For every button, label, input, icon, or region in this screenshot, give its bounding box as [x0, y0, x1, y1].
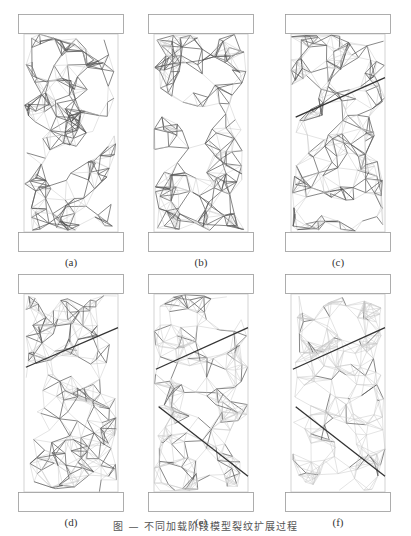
top-platen	[19, 275, 124, 294]
top-platen	[286, 275, 391, 294]
panel-c: (c)	[285, 14, 391, 252]
crack-line	[159, 407, 248, 476]
panel-a: (a)	[18, 14, 124, 252]
top-platen	[149, 275, 254, 294]
specimen-mesh	[148, 274, 254, 512]
panel-label: (a)	[18, 256, 124, 268]
bottom-platen	[286, 233, 391, 252]
panel-d: (d)	[18, 274, 124, 512]
bottom-platen	[286, 493, 391, 512]
specimen-mesh	[148, 14, 254, 252]
crack-line	[296, 78, 385, 118]
panel-label: (b)	[148, 256, 254, 268]
top-platen	[19, 15, 124, 34]
top-platen	[149, 15, 254, 34]
panel-e: (e)	[148, 274, 254, 512]
top-platen	[286, 15, 391, 34]
specimen-mesh	[285, 274, 391, 512]
bottom-platen	[19, 493, 124, 512]
bottom-platen	[149, 233, 254, 252]
bottom-platen	[19, 233, 124, 252]
figure-caption: 图 — 不同加载阶段模型裂纹扩展过程	[0, 518, 411, 533]
panel-f: (f)	[285, 274, 391, 512]
panel-b: (b)	[148, 14, 254, 252]
specimen-mesh	[285, 14, 391, 252]
specimen-mesh	[18, 14, 124, 252]
bottom-platen	[149, 493, 254, 512]
panel-label: (c)	[285, 256, 391, 268]
specimen-mesh	[18, 274, 124, 512]
